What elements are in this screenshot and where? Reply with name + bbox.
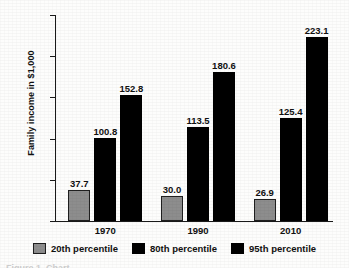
bar-value-label: 152.8 [119, 83, 143, 94]
bar-1970-95th-percentile [120, 95, 142, 221]
legend-item-80th-percentile[interactable]: 80th percentile [132, 243, 217, 254]
chart-legend: 20th percentile80th percentile95th perce… [0, 243, 349, 254]
legend-label: 20th percentile [51, 243, 118, 254]
y-tick-100 [50, 139, 56, 140]
y-tick-250 [50, 15, 56, 16]
legend-swatch-icon [231, 243, 244, 254]
x-group-label-1990: 1990 [187, 225, 208, 236]
plot-area: 050100150200$250 37.7100.8152.830.0113.5… [55, 15, 333, 222]
y-tick-0 [50, 221, 56, 222]
bar-2010-20th-percentile [254, 199, 276, 221]
bar-2010-80th-percentile [280, 118, 302, 221]
legend-label: 95th percentile [249, 243, 316, 254]
x-group-label-1970: 1970 [95, 225, 116, 236]
bar-1990-80th-percentile [187, 127, 209, 221]
bar-value-label: 100.8 [93, 126, 117, 137]
bar-1970-80th-percentile [94, 138, 116, 221]
bar-value-label: 26.9 [255, 187, 274, 198]
bar-1990-20th-percentile [161, 196, 183, 221]
legend-item-20th-percentile[interactable]: 20th percentile [33, 243, 118, 254]
bar-1970-20th-percentile [68, 190, 90, 221]
chart-figure: Family income in $1,000 050100150200$250… [0, 0, 349, 268]
bar-1990-95th-percentile [213, 72, 235, 221]
y-tick-50 [50, 180, 56, 181]
bar-value-label: 37.7 [70, 178, 89, 189]
y-tick-200 [50, 56, 56, 57]
y-tick-150 [50, 97, 56, 98]
y-axis-line [55, 15, 56, 222]
bar-value-label: 125.4 [279, 106, 303, 117]
bar-value-label: 113.5 [186, 115, 209, 126]
x-group-label-2010: 2010 [280, 225, 301, 236]
figure-caption: Figure 1. Chart [6, 263, 70, 268]
y-axis-title: Family income in $1,000 [26, 23, 36, 183]
legend-label: 80th percentile [150, 243, 217, 254]
legend-swatch-icon [33, 243, 46, 254]
bar-value-label: 223.1 [305, 25, 329, 36]
bar-value-label: 180.6 [212, 60, 236, 71]
bar-value-label: 30.0 [163, 184, 182, 195]
legend-item-95th-percentile[interactable]: 95th percentile [231, 243, 316, 254]
bar-2010-95th-percentile [306, 37, 328, 221]
legend-swatch-icon [132, 243, 145, 254]
x-axis-line [55, 221, 333, 222]
